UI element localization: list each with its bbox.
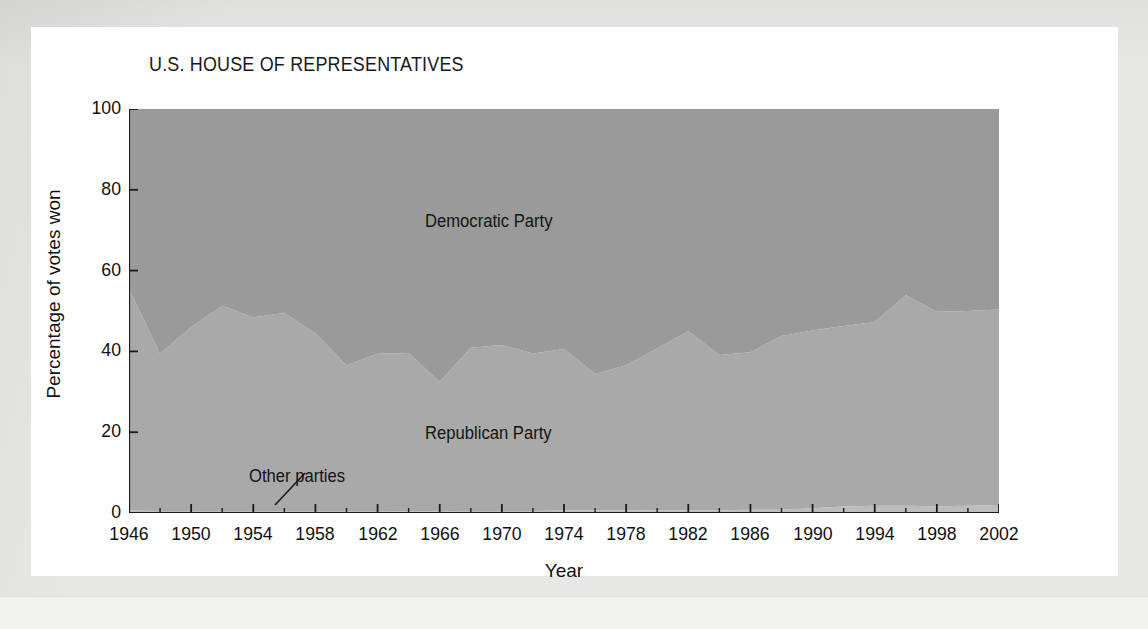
series-label-republican: Republican Party — [425, 423, 552, 444]
y-tick-label: 20 — [75, 420, 122, 442]
plot-area: Democratic Party Republican Party Other … — [129, 109, 999, 513]
y-tick-label: 100 — [75, 97, 122, 119]
x-tick-label: 2002 — [962, 523, 1036, 545]
y-axis-title: Percentage of votes won — [43, 64, 65, 524]
y-tick-label: 80 — [75, 178, 122, 200]
area-series-group — [129, 109, 999, 513]
y-tick-label: 0 — [75, 501, 122, 523]
figure-card: U.S. HOUSE OF REPRESENTATIVES 0204060801… — [31, 27, 1118, 576]
y-axis-tick-labels: 020406080100 — [71, 109, 121, 513]
scanned-page-background: U.S. HOUSE OF REPRESENTATIVES 0204060801… — [0, 0, 1148, 629]
series-label-democratic: Democratic Party — [425, 211, 552, 232]
y-tick-label: 40 — [75, 339, 122, 361]
series-label-other-parties: Other parties — [249, 466, 345, 487]
x-axis-tick-labels: 1946195019541958196219661970197419781982… — [129, 523, 999, 553]
x-axis-title: Year — [129, 560, 999, 582]
y-tick-label: 60 — [75, 259, 122, 281]
chart-title: U.S. HOUSE OF REPRESENTATIVES — [149, 53, 464, 76]
stacked-area-chart — [129, 109, 999, 513]
